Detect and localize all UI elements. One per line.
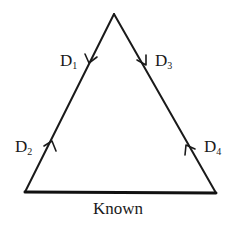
label-d2: D2 xyxy=(15,137,32,157)
left-edge xyxy=(25,14,114,192)
right-edge xyxy=(114,14,216,193)
label-d1: D1 xyxy=(60,51,77,71)
base-edge xyxy=(25,192,216,193)
label-d3: D3 xyxy=(155,51,172,71)
triangle-diagram: D1 D3 D2 D4 Known xyxy=(0,0,236,225)
label-known: Known xyxy=(93,199,144,218)
label-d4: D4 xyxy=(204,137,221,157)
